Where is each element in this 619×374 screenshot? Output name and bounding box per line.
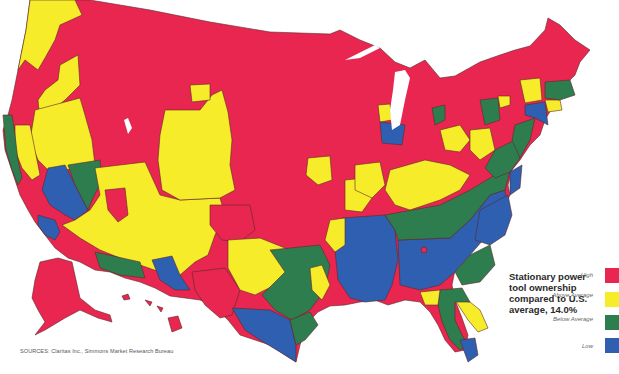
- region-above-wi-se: [378, 104, 392, 122]
- region-above-co-north: [190, 84, 210, 102]
- legend-label-low: Low: [549, 343, 593, 350]
- region-high-atlanta: [421, 247, 427, 253]
- legend-swatch-below: [605, 315, 619, 330]
- sources-note: SOURCES: Claritas Inc., Simmons Market R…: [20, 348, 173, 354]
- legend-swatch-above: [605, 292, 619, 307]
- region-above-ct: [545, 100, 562, 112]
- legend-label-below: Below Average: [549, 316, 593, 323]
- legend-label-above: Above Average: [549, 292, 593, 299]
- legend-label-high: High: [549, 272, 593, 279]
- us-market-map: [0, 0, 619, 374]
- region-high-hawaii: [122, 294, 182, 332]
- legend-swatch-high: [605, 268, 619, 283]
- region-below-new-england: [545, 80, 575, 100]
- legend-swatch-low: [605, 338, 619, 353]
